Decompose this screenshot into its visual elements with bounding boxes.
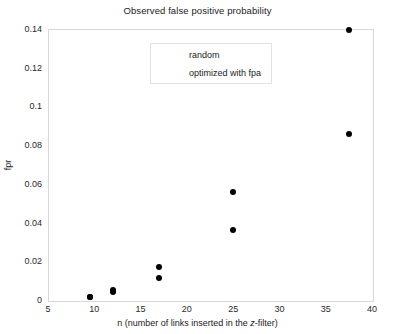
- x-tick-label: 10: [74, 304, 114, 314]
- chart-figure: Observed false positive probability 00.0…: [0, 0, 395, 334]
- legend-marker-icon: [151, 64, 189, 82]
- x-tick-label: 20: [167, 304, 207, 314]
- x-axis-label-post: -filter): [255, 318, 278, 328]
- legend-item-random[interactable]: random: [151, 46, 273, 64]
- legend-item-label: random: [189, 50, 220, 60]
- y-tick-label: 0: [0, 295, 42, 305]
- y-tick-label: 0.04: [0, 218, 42, 228]
- y-tick-label: 0.08: [0, 140, 42, 150]
- legend-item-optimized-with-fpa[interactable]: optimized with fpa: [151, 64, 273, 82]
- x-tick-label: 25: [213, 304, 253, 314]
- x-axis-label-pre: n (number of links inserted in the: [117, 318, 250, 328]
- y-tick-label: 0.1: [0, 101, 42, 111]
- y-tick-label: 0.14: [0, 24, 42, 34]
- y-tick-label: 0.12: [0, 63, 42, 73]
- x-axis-label: n (number of links inserted in the z-fil…: [0, 318, 395, 328]
- x-tick-label: 15: [121, 304, 161, 314]
- legend-item-label: optimized with fpa: [189, 68, 261, 78]
- x-tick-label: 40: [352, 304, 392, 314]
- page-title: Observed false positive probability: [0, 5, 395, 16]
- x-tick-label: 5: [28, 304, 68, 314]
- x-tick-label: 30: [259, 304, 299, 314]
- y-tick-label: 0.06: [0, 179, 42, 189]
- y-axis-label: fpr: [3, 160, 13, 171]
- chart-legend[interactable]: random optimized with fpa: [150, 43, 272, 84]
- legend-marker-icon: [151, 46, 189, 64]
- x-tick-label: 35: [306, 304, 346, 314]
- y-tick-label: 0.02: [0, 256, 42, 266]
